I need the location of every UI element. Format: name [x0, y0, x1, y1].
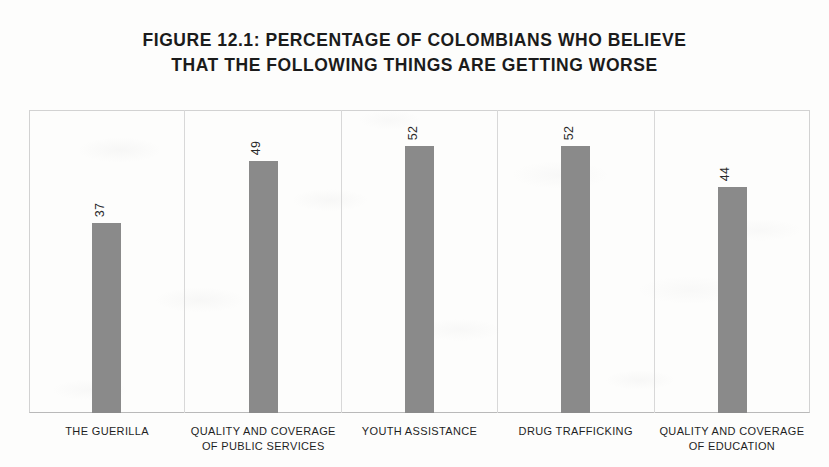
bar-youth-assistance[interactable]: 52	[405, 146, 434, 413]
bar-value-label: 37	[93, 203, 107, 218]
bar-value-label: 52	[406, 126, 420, 141]
bar-wrapper: 52	[342, 110, 497, 413]
bar-panels: 37 49 52 52	[29, 110, 810, 413]
x-label-line-2: OF EDUCATION	[658, 439, 806, 454]
bar-wrapper: 49	[185, 110, 340, 413]
category-panel-drug-trafficking: 52	[498, 110, 654, 413]
x-label-line-2: OF PUBLIC SERVICES	[189, 439, 337, 454]
chart-title-line-1: FIGURE 12.1: PERCENTAGE OF COLOMBIANS WH…	[0, 28, 829, 53]
bar-quality-and-coverage-of-public-services[interactable]: 49	[249, 161, 278, 413]
category-panel-youth-assistance: 52	[342, 110, 498, 413]
x-axis-category-labels: THE GUERILLA QUALITY AND COVERAGE OF PUB…	[29, 424, 810, 454]
figure-page: FIGURE 12.1: PERCENTAGE OF COLOMBIANS WH…	[0, 0, 829, 467]
category-panel-public-services: 49	[185, 110, 341, 413]
bar-wrapper: 44	[655, 110, 810, 413]
chart-title: FIGURE 12.1: PERCENTAGE OF COLOMBIANS WH…	[0, 28, 829, 78]
bar-drug-trafficking[interactable]: 52	[561, 146, 590, 413]
x-label-line-1: THE GUERILLA	[65, 425, 149, 437]
bar-value-label: 44	[718, 167, 732, 182]
category-panel-education: 44	[655, 110, 810, 413]
x-label-public-services: QUALITY AND COVERAGE OF PUBLIC SERVICES	[185, 424, 341, 454]
bar-value-label: 52	[562, 126, 576, 141]
bar-quality-and-coverage-of-education[interactable]: 44	[718, 187, 747, 413]
x-label-line-1: DRUG TRAFFICKING	[519, 425, 633, 437]
x-label-line-1: QUALITY AND COVERAGE	[659, 425, 804, 437]
x-label-line-1: YOUTH ASSISTANCE	[362, 425, 477, 437]
x-label-the-guerilla: THE GUERILLA	[29, 424, 185, 454]
x-label-drug-trafficking: DRUG TRAFFICKING	[498, 424, 654, 454]
bar-wrapper: 52	[498, 110, 653, 413]
chart-title-line-2: THAT THE FOLLOWING THINGS ARE GETTING WO…	[0, 53, 829, 78]
bar-the-guerilla[interactable]: 37	[92, 223, 121, 413]
x-label-education: QUALITY AND COVERAGE OF EDUCATION	[654, 424, 810, 454]
x-label-line-1: QUALITY AND COVERAGE	[191, 425, 336, 437]
bar-value-label: 49	[249, 141, 263, 156]
category-panel-the-guerilla: 37	[29, 110, 185, 413]
x-label-youth-assistance: YOUTH ASSISTANCE	[341, 424, 497, 454]
bar-wrapper: 37	[29, 110, 184, 413]
